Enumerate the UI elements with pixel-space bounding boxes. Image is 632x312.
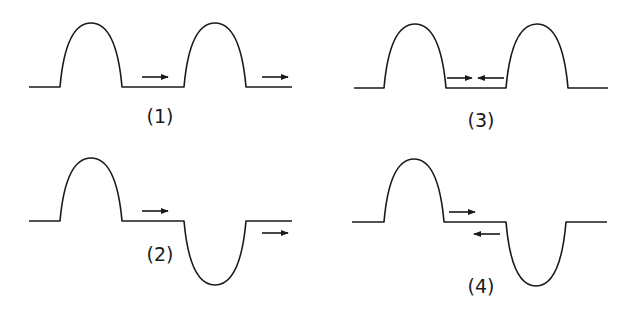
panel-2-label: (2) xyxy=(147,243,174,265)
diagram-canvas xyxy=(0,0,632,312)
panel-1-label: (1) xyxy=(147,105,174,127)
wave-pulse-diagram: (1) (2) (3) (4) xyxy=(0,0,632,312)
panel-3-same-pulses-approaching xyxy=(354,24,608,88)
panel-4-opposite-pulses-approaching xyxy=(352,159,607,286)
string-with-pulses xyxy=(29,158,292,285)
string-with-pulses xyxy=(352,159,607,286)
panel-3-label: (3) xyxy=(468,109,495,131)
panel-2-opposite-pulses-same-direction xyxy=(29,158,292,285)
panel-1-same-pulses-same-direction xyxy=(29,23,292,87)
panel-4-label: (4) xyxy=(468,275,495,297)
